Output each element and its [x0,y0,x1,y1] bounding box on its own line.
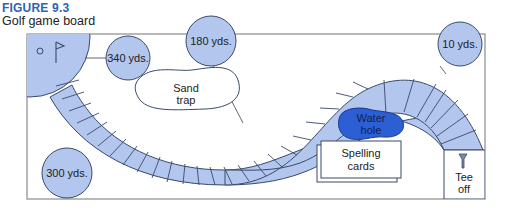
water-hole-label-1: Water [357,112,386,124]
spelling-cards-label-2: cards [348,160,375,172]
tee-off-label-1: Tee [455,171,473,183]
sand-trap-label-1: Sand [173,82,199,94]
marker-340: 340 yds. [106,36,150,80]
golf-game-board: 340 yds. 180 yds. 10 yds. 300 yds. Sand … [0,0,510,212]
marker-300: 300 yds. [42,148,92,198]
marker-180-label: 180 yds. [190,35,232,47]
sand-trap-label-2: trap [177,94,196,106]
marker-300-label: 300 yds. [46,167,88,179]
marker-180: 180 yds. [186,16,236,66]
tee-off-label-2: off [458,183,471,195]
marker-10-label: 10 yds. [442,38,477,50]
marker-10: 10 yds. [438,22,482,66]
water-hole-label-2: hole [361,124,382,136]
spelling-cards: Spelling cards [317,141,401,182]
marker-340-label: 340 yds. [107,52,149,64]
spelling-cards-label-1: Spelling [341,147,380,159]
